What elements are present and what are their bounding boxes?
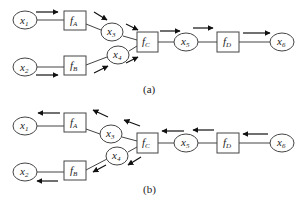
arrow-icon xyxy=(93,165,106,172)
variable-node-x1: x1 xyxy=(13,117,37,135)
arrow-icon xyxy=(126,24,138,30)
arrow-icon xyxy=(93,110,108,117)
arrow-icon xyxy=(128,157,141,165)
variable-node-x2: x2 xyxy=(13,163,37,181)
arrow-icon xyxy=(94,66,108,73)
factor-node-fC: fC xyxy=(137,32,158,52)
factor-node-fC: fC xyxy=(137,133,158,153)
variable-node-x6: x6 xyxy=(270,33,294,51)
variable-node-x6: x6 xyxy=(270,134,294,152)
factor-node-fD: fD xyxy=(217,32,239,52)
variable-node-x1: x1 xyxy=(13,11,37,29)
variable-node-x5: x5 xyxy=(174,134,198,152)
arrow-icon xyxy=(124,120,140,126)
variable-node-x4: x4 xyxy=(107,46,129,64)
variable-node-x5: x5 xyxy=(174,33,198,51)
variable-node-x3: x3 xyxy=(100,125,122,143)
panel-b-caption: (b) xyxy=(143,183,156,196)
factor-node-fA: fA xyxy=(64,113,86,132)
factor-graph-diagram: x1 x2 x3 x4 x5 x6 fA fB xyxy=(0,0,301,201)
panel-a-forward: x1 x2 x3 x4 x5 x6 fA fB xyxy=(13,11,294,96)
factor-node-fD: fD xyxy=(217,133,239,153)
panel-a-caption: (a) xyxy=(143,83,156,96)
factor-node-fA: fA xyxy=(64,11,86,30)
variable-node-x3: x3 xyxy=(101,23,123,41)
arrow-icon xyxy=(94,12,107,20)
factor-node-fB: fB xyxy=(64,161,86,180)
factor-node-fB: fB xyxy=(64,56,86,75)
variable-node-x4: x4 xyxy=(106,147,128,165)
variable-node-x2: x2 xyxy=(13,58,37,76)
panel-b-backward: x1 x2 x3 x4 x5 x6 fA fB xyxy=(13,110,294,196)
